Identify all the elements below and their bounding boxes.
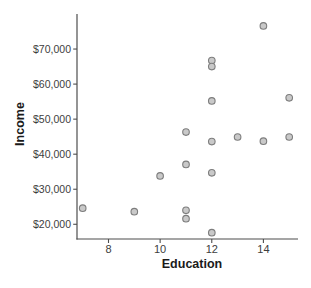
data-point — [260, 23, 267, 30]
y-axis-title: Income — [13, 102, 27, 146]
scatter-plot-canvas: $20,000$30,000$40,000$50,000$60,000$70,0… — [0, 0, 311, 288]
data-point — [183, 207, 190, 214]
data-point — [286, 95, 293, 102]
data-point — [131, 208, 138, 215]
data-points — [79, 23, 292, 236]
x-tick-label: 8 — [105, 243, 111, 255]
y-tick-label: $30,000 — [33, 183, 71, 195]
y-tick-label: $40,000 — [33, 148, 71, 160]
x-tick-label: 10 — [154, 243, 166, 255]
x-axis-title: Education — [162, 257, 222, 271]
data-point — [157, 173, 164, 180]
x-axis-ticks: 8101214 — [105, 239, 269, 255]
y-tick-label: $70,000 — [33, 43, 71, 55]
y-tick-label: $20,000 — [33, 218, 71, 230]
x-tick-label: 12 — [206, 243, 218, 255]
data-point — [183, 129, 190, 136]
y-tick-label: $50,000 — [33, 113, 71, 125]
y-tick-label: $60,000 — [33, 78, 71, 90]
data-point — [209, 170, 216, 177]
scatter-plot: $20,000$30,000$40,000$50,000$60,000$70,0… — [0, 0, 311, 288]
data-point — [209, 63, 216, 70]
data-point — [183, 161, 190, 168]
data-point — [79, 205, 86, 212]
y-axis-ticks: $20,000$30,000$40,000$50,000$60,000$70,0… — [33, 43, 77, 230]
data-point — [209, 138, 216, 145]
data-point — [286, 134, 293, 141]
data-point — [209, 229, 216, 236]
data-point — [183, 215, 190, 222]
data-point — [234, 134, 241, 141]
data-point — [260, 138, 267, 145]
x-tick-label: 14 — [257, 243, 269, 255]
data-point — [209, 98, 216, 105]
